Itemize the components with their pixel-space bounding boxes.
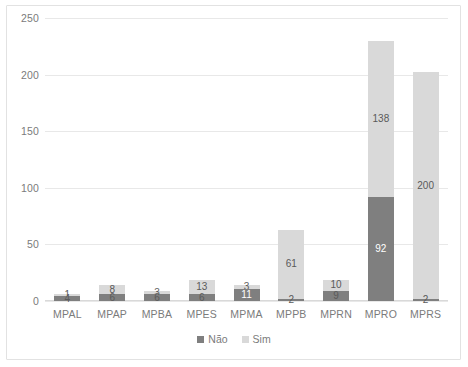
- legend-label: Não: [208, 333, 227, 345]
- bar-stack[interactable]: 13892: [368, 41, 394, 301]
- bar-value-label-nao: 6: [109, 293, 115, 303]
- x-axis-tick-label: MPAP: [90, 308, 135, 320]
- x-axis-tick-label: MPRS: [403, 308, 448, 320]
- bar-value-label-sim: 200: [417, 181, 434, 191]
- bar-segment-sim[interactable]: 138: [368, 41, 394, 197]
- bar-stack[interactable]: 36: [144, 291, 170, 301]
- bar-value-label-nao: 6: [199, 293, 205, 303]
- bar-segment-nao[interactable]: 9: [323, 291, 349, 301]
- bar-value-label-nao: 9: [333, 291, 339, 301]
- bar-segment-nao[interactable]: 11: [234, 289, 260, 301]
- bar-value-label-nao: 11: [241, 290, 251, 300]
- x-axis-tick-label: MPBA: [135, 308, 180, 320]
- bar-stack[interactable]: 136: [189, 280, 215, 301]
- x-axis-tick-label: MPPB: [269, 308, 314, 320]
- bar-segment-nao[interactable]: 2: [413, 299, 439, 301]
- bar-stack[interactable]: 109: [323, 280, 349, 302]
- bar-segment-nao[interactable]: 6: [99, 294, 125, 301]
- bar-series-group: 14MPAL86MPAP36MPBA136MPES311MPMA612MPPB1…: [45, 18, 448, 301]
- bar-stack[interactable]: 311: [234, 285, 260, 301]
- bar-column[interactable]: 612MPPB: [269, 18, 314, 301]
- bar-value-label-nao: 2: [423, 295, 429, 305]
- bar-column[interactable]: 86MPAP: [90, 18, 135, 301]
- y-axis-tick-label: 250: [21, 12, 39, 24]
- x-axis-tick-label: MPRN: [314, 308, 359, 320]
- y-axis-tick-label: 0: [33, 295, 39, 307]
- bar-value-label-nao: 6: [154, 293, 160, 303]
- bar-column[interactable]: 109MPRN: [314, 18, 359, 301]
- y-axis-tick-label: 50: [27, 238, 39, 250]
- bar-value-label-nao: 2: [289, 295, 295, 305]
- bar-value-label-sim: 61: [286, 259, 297, 269]
- bar-segment-nao[interactable]: 92: [368, 197, 394, 301]
- bar-segment-nao[interactable]: 6: [189, 294, 215, 301]
- x-axis-tick-label: MPES: [179, 308, 224, 320]
- bar-column[interactable]: 14MPAL: [45, 18, 90, 301]
- legend-item[interactable]: Sim: [242, 333, 271, 345]
- x-axis-tick-label: MPAL: [45, 308, 90, 320]
- bar-column[interactable]: 13892MPRO: [358, 18, 403, 301]
- legend-swatch-icon: [242, 336, 249, 343]
- bar-column[interactable]: 311MPMA: [224, 18, 269, 301]
- bar-value-label-nao: 92: [375, 244, 386, 254]
- bar-stack[interactable]: 2002: [413, 72, 439, 301]
- bar-segment-nao[interactable]: 4: [54, 296, 80, 301]
- bar-value-label-sim: 138: [373, 114, 390, 124]
- bar-column[interactable]: 136MPES: [179, 18, 224, 301]
- legend-swatch-icon: [197, 336, 204, 343]
- bar-segment-nao[interactable]: 6: [144, 294, 170, 301]
- x-axis-tick-label: MPRO: [358, 308, 403, 320]
- bar-segment-nao[interactable]: 2: [278, 299, 304, 301]
- bar-value-label-sim: 13: [196, 282, 207, 292]
- bar-value-label-nao: 4: [65, 294, 71, 304]
- bar-stack[interactable]: 86: [99, 285, 125, 301]
- y-axis-tick-label: 150: [21, 125, 39, 137]
- legend-item[interactable]: Não: [197, 333, 227, 345]
- chart-container: 050100150200250 14MPAL86MPAP36MPBA136MPE…: [0, 0, 468, 367]
- chart-legend: NãoSim: [0, 333, 468, 345]
- x-axis-tick-label: MPMA: [224, 308, 269, 320]
- bar-segment-sim[interactable]: 200: [413, 72, 439, 298]
- plot-area: 050100150200250 14MPAL86MPAP36MPBA136MPE…: [45, 18, 448, 301]
- bar-segment-sim[interactable]: 61: [278, 230, 304, 299]
- legend-label: Sim: [253, 333, 271, 345]
- bar-stack[interactable]: 612: [278, 230, 304, 301]
- y-axis-tick-label: 100: [21, 182, 39, 194]
- bar-column[interactable]: 36MPBA: [135, 18, 180, 301]
- y-axis-tick-label: 200: [21, 69, 39, 81]
- bar-column[interactable]: 2002MPRS: [403, 18, 448, 301]
- gridline: [45, 301, 448, 302]
- bar-value-label-sim: 10: [331, 280, 342, 290]
- bar-stack[interactable]: 14: [54, 294, 80, 301]
